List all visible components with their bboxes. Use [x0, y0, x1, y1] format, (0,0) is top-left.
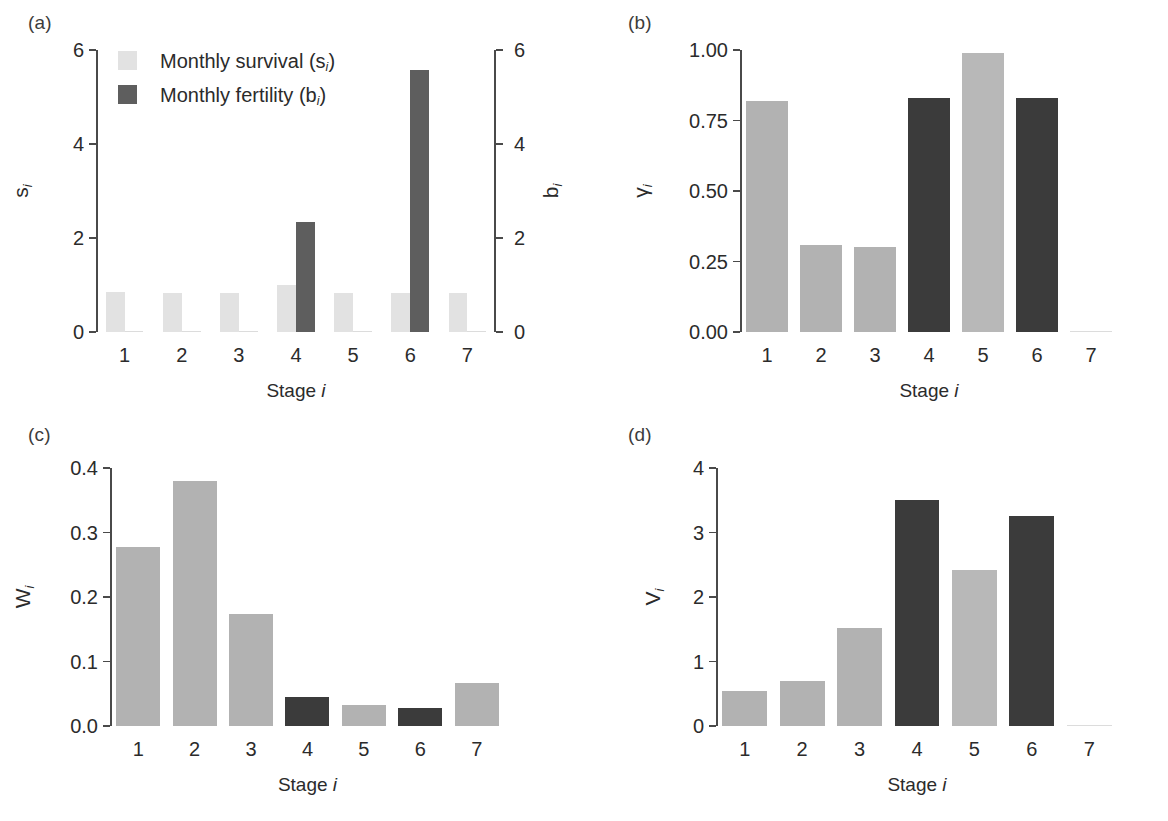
panel-a-x-tick-label: 5: [348, 344, 359, 367]
panel-a-legend-label: Monthly fertility (bi): [160, 80, 326, 116]
panel-a-y-tick-right: [496, 49, 503, 51]
panel-d-bar: [1067, 725, 1112, 727]
panel-a: (a) 02460246bisi1234567Stage iMonthly su…: [0, 0, 600, 400]
panel-a-y-tick-label-right: 6: [514, 39, 525, 62]
panel-d-x-tick-label: 5: [969, 738, 980, 761]
panel-d-label: (d): [628, 424, 652, 446]
panel-d-y-axis-line: [716, 468, 718, 726]
panel-c-plot-area: 0.00.10.20.30.4Wi1234567Stage i: [110, 468, 505, 726]
panel-d-y-tick: [709, 661, 716, 663]
panel-c-bar: [173, 481, 217, 726]
panel-b-label: (b): [628, 12, 652, 34]
panel-b-bar: [746, 101, 788, 332]
panel-a-x-tick-label: 3: [233, 344, 244, 367]
panel-c-x-tick-label: 1: [133, 738, 144, 761]
panel-d-bar: [895, 500, 940, 726]
panel-a-y-axis-title: si: [9, 184, 34, 197]
panel-c-bar: [398, 708, 442, 726]
panel-d-bar: [952, 570, 997, 726]
panel-a-bar-fertility: [353, 331, 372, 333]
panel-c-bar: [342, 705, 386, 726]
panel-b-x-tick-label: 3: [869, 344, 880, 367]
panel-c-y-tick: [103, 532, 110, 534]
panel-d-plot-area: 01234Vi1234567Stage i: [716, 468, 1118, 726]
panel-d-bar: [837, 628, 882, 726]
panel-d-y-tick: [709, 532, 716, 534]
panel-b-y-tick: [733, 120, 740, 122]
panel-b-bar: [800, 245, 842, 332]
panel-d-y-tick-label: 3: [584, 521, 704, 544]
panel-d-y-tick-label: 0: [584, 715, 704, 738]
panel-b-y-axis-title: γi: [629, 184, 654, 197]
panel-b-y-tick-label: 0.75: [608, 109, 728, 132]
panel-d-y-axis-title: Vi: [641, 589, 666, 606]
panel-a-bar-fertility: [467, 331, 486, 333]
panel-c-y-tick-label: 0.3: [0, 521, 98, 544]
panel-a-bar-survival: [391, 293, 410, 332]
panel-a-bar-fertility: [239, 331, 258, 333]
panel-c-bar: [229, 614, 273, 726]
panel-b-y-axis-line: [740, 50, 742, 332]
panel-b-x-tick-label: 1: [761, 344, 772, 367]
panel-a-y-tick-label: 2: [0, 227, 84, 250]
panel-b-x-tick-label: 4: [923, 344, 934, 367]
panel-c-bar: [455, 683, 499, 726]
panel-a-x-tick-label: 4: [290, 344, 301, 367]
panel-d-y-tick: [709, 725, 716, 727]
panel-c-y-axis-title: Wi: [11, 586, 36, 609]
panel-c-x-tick-label: 7: [471, 738, 482, 761]
panel-a-bar-fertility: [125, 331, 144, 333]
panel-b-x-tick-label: 7: [1085, 344, 1096, 367]
panel-a-y-tick-right: [496, 143, 503, 145]
panel-d-x-tick-label: 7: [1084, 738, 1095, 761]
panel-b-y-tick-label: 1.00: [608, 39, 728, 62]
panel-a-bar-survival: [334, 293, 353, 332]
panel-a-legend-swatch-survival: [118, 51, 137, 70]
panel-a-bar-survival: [449, 293, 468, 332]
panel-b-plot-area: 0.000.250.500.751.00γi1234567Stage i: [740, 50, 1118, 332]
panel-a-plot-area: 02460246bisi1234567Stage iMonthly surviv…: [96, 50, 496, 332]
panel-d-y-tick-label: 4: [584, 457, 704, 480]
panel-c-y-tick-label: 0.0: [0, 715, 98, 738]
panel-c-label: (c): [28, 424, 51, 446]
panel-c-x-tick-label: 5: [358, 738, 369, 761]
panel-a-y-tick-label: 4: [0, 133, 84, 156]
panel-b-y-tick-label: 0.25: [608, 250, 728, 273]
panel-c-y-tick-label: 0.4: [0, 457, 98, 480]
panel-c-y-tick: [103, 725, 110, 727]
panel-a-bar-fertility: [410, 70, 429, 332]
panel-a-y-tick: [89, 237, 96, 239]
panel-b-y-tick: [733, 331, 740, 333]
panel-b-x-tick-label: 6: [1031, 344, 1042, 367]
panel-b-y-tick-label: 0.50: [608, 180, 728, 203]
panel-d: (d) 01234Vi1234567Stage i: [600, 400, 1168, 821]
panel-c-y-axis-line: [110, 468, 112, 726]
panel-c-x-tick-label: 4: [302, 738, 313, 761]
panel-a-bar-survival: [163, 293, 182, 332]
panel-b-y-tick: [733, 49, 740, 51]
panel-b-y-tick-label: 0.00: [608, 321, 728, 344]
panel-d-bar: [1009, 516, 1054, 726]
panel-a-bar-fertility: [296, 222, 315, 332]
panel-d-x-tick-label: 2: [797, 738, 808, 761]
panel-b-bar: [854, 247, 896, 332]
panel-b-y-tick: [733, 190, 740, 192]
panel-a-y-tick-label-right: 0: [514, 321, 525, 344]
panel-a-y-axis-right-line: [494, 50, 496, 332]
panel-d-bar: [780, 681, 825, 726]
figure-root: (a) 02460246bisi1234567Stage iMonthly su…: [0, 0, 1168, 821]
panel-a-y-tick-label: 6: [0, 39, 84, 62]
panel-a-y-axis-line: [96, 50, 98, 332]
panel-c-y-tick-label: 0.1: [0, 650, 98, 673]
panel-d-y-tick: [709, 467, 716, 469]
panel-c-x-tick-label: 6: [415, 738, 426, 761]
panel-d-x-tick-label: 4: [911, 738, 922, 761]
panel-c-x-tick-label: 3: [246, 738, 257, 761]
panel-c-y-tick: [103, 661, 110, 663]
panel-a-x-tick-label: 7: [462, 344, 473, 367]
panel-c-x-axis-title: Stage i: [278, 774, 337, 796]
panel-a-y-tick-right: [496, 237, 503, 239]
panel-b-bar: [962, 53, 1004, 332]
panel-d-x-axis-title: Stage i: [887, 774, 946, 796]
panel-a-x-tick-label: 1: [119, 344, 130, 367]
